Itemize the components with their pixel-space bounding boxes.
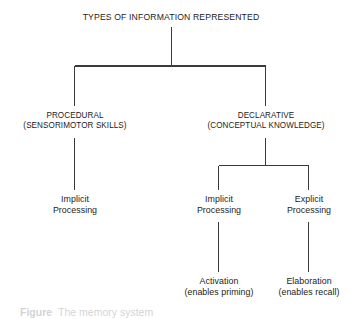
node-elaboration-line1: Elaboration [278,276,339,287]
node-declarative-implicit-line2: Processing [197,205,241,216]
node-declarative: DECLARATIVE (CONCEPTUAL KNOWLEDGE) [207,110,324,130]
node-procedural-implicit-line2: Processing [53,205,97,216]
node-declarative-line1: DECLARATIVE [207,110,324,120]
node-declarative-implicit-processing: Implicit Processing [197,194,241,216]
node-elaboration: Elaboration (enables recall) [278,276,339,298]
node-declarative-explicit-line2: Processing [287,205,331,216]
node-procedural-line1: PROCEDURAL [23,110,126,120]
node-activation: Activation (enables priming) [184,276,253,298]
node-root-line1: TYPES OF INFORMATION REPRESENTED [83,12,260,23]
node-elaboration-line2: (enables recall) [278,287,339,298]
node-declarative-explicit-processing: Explicit Processing [287,194,331,216]
figure-caption-text: The memory system [58,306,153,318]
figure-canvas: TYPES OF INFORMATION REPRESENTED PROCEDU… [0,0,352,319]
node-activation-line2: (enables priming) [184,287,253,298]
node-procedural-implicit-line1: Implicit [53,194,97,205]
node-declarative-implicit-line1: Implicit [197,194,241,205]
node-procedural-implicit-processing: Implicit Processing [53,194,97,216]
node-declarative-explicit-line1: Explicit [287,194,331,205]
node-procedural-line2: (SENSORIMOTOR SKILLS) [23,120,126,130]
tree-connector-lines [0,0,352,319]
node-root: TYPES OF INFORMATION REPRESENTED [83,12,260,23]
figure-caption-label: Figure [20,306,52,318]
node-procedural: PROCEDURAL (SENSORIMOTOR SKILLS) [23,110,126,130]
node-activation-line1: Activation [184,276,253,287]
figure-caption: FigureThe memory system [20,306,153,318]
node-declarative-line2: (CONCEPTUAL KNOWLEDGE) [207,120,324,130]
